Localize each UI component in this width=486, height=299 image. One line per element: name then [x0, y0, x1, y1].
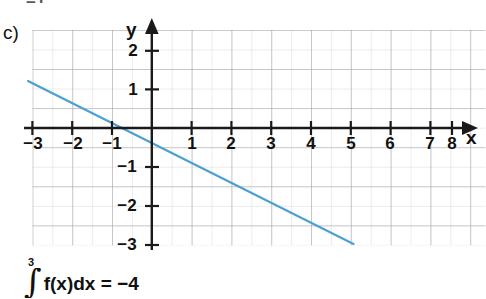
integral-sign-icon: ∫: [24, 268, 42, 298]
y-tick-label-neg1: −1: [114, 158, 140, 175]
x-tick-label-7: 7: [423, 135, 437, 152]
y-axis-label: y: [126, 20, 137, 39]
x-tick-label-neg3: −3: [22, 135, 44, 152]
integral-upper-limit: 3: [28, 257, 34, 268]
x-tick-label-neg2: −2: [62, 135, 84, 152]
x-tick-label-1: 1: [185, 135, 199, 152]
x-tick-label-6: 6: [383, 135, 397, 152]
x-axis-label: x: [466, 128, 477, 147]
integral-limits: 3 ∫: [24, 256, 42, 298]
x-tick-label-4: 4: [304, 135, 318, 152]
integral-formula: 3 ∫ f(x)dx = −4: [24, 256, 139, 298]
y-tick-label-neg3: −3: [114, 236, 140, 253]
y-tick-label-1: 1: [126, 81, 140, 98]
x-tick-label-neg1: −1: [101, 135, 123, 152]
y-tick-label-2: 2: [126, 42, 140, 59]
x-tick-label-3: 3: [264, 135, 278, 152]
x-tick-label-8: 8: [445, 135, 459, 152]
integral-formula-body: f(x)dx = −4: [44, 273, 139, 298]
x-tick-label-5: 5: [344, 135, 358, 152]
figure-panel-c: −1 c): [0, 0, 486, 299]
x-tick-label-2: 2: [224, 135, 238, 152]
y-tick-label-neg2: −2: [114, 197, 140, 214]
